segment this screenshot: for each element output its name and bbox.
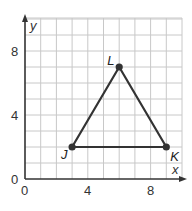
x-tick-8: 8 (147, 183, 154, 198)
y-tick-0: 0 (11, 172, 18, 187)
x-tick-0: 0 (21, 183, 28, 198)
x-axis-arrow-icon (179, 176, 187, 182)
y-tick-4: 4 (11, 108, 18, 123)
y-tick-8: 8 (11, 44, 18, 59)
point-k (163, 143, 170, 150)
point-j (69, 143, 76, 150)
point-l (116, 63, 123, 70)
point-label-j: J (60, 147, 68, 162)
point-label-k: K (170, 149, 180, 164)
point-label-l: L (107, 53, 114, 68)
x-tick-4: 4 (84, 183, 91, 198)
x-axis-label: x (171, 162, 179, 177)
y-axis-label: y (29, 18, 38, 33)
grid-lines (25, 18, 182, 179)
coordinate-plane: y x 8 4 0 0 4 8 JKL (0, 0, 192, 211)
axes (22, 14, 187, 182)
